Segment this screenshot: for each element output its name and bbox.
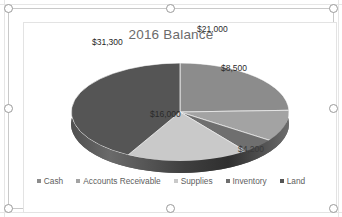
chart-title: 2016 Balance [9,27,333,42]
legend-swatch-icon [37,179,41,183]
legend-label: Supplies [181,176,213,186]
data-label-inventory: $4,200 [238,144,264,154]
legend-item-land[interactable]: Land [280,176,305,186]
resize-handle-top-center[interactable] [166,4,175,13]
resize-handle-middle-left[interactable] [4,104,13,113]
resize-handle-bottom-center[interactable] [166,204,175,213]
chart-object-selection-frame[interactable]: 2016 Balance $21,000 $8,500 $16,000 $4,2… [8,8,334,209]
resize-handle-top-left[interactable] [4,4,13,13]
resize-handle-bottom-right[interactable] [329,204,338,213]
legend-swatch-icon [280,179,284,183]
resize-handle-top-right[interactable] [329,4,338,13]
legend-label: Cash [44,176,63,186]
resize-handle-bottom-left[interactable] [4,204,13,213]
legend-label: Land [287,176,305,186]
legend-swatch-icon [76,179,80,183]
chart-legend[interactable]: Cash Accounts Receivable Supplies Invent… [9,176,333,186]
legend-item-accounts-receivable[interactable]: Accounts Receivable [76,176,160,186]
sheet-gridline-vertical [338,0,339,217]
legend-swatch-icon [226,179,230,183]
legend-item-supplies[interactable]: Supplies [174,176,213,186]
legend-item-cash[interactable]: Cash [37,176,63,186]
data-label-accounts-receivable: $8,500 [221,63,247,73]
data-label-cash: $21,000 [197,24,228,34]
legend-swatch-icon [174,179,178,183]
legend-label: Accounts Receivable [83,176,160,186]
pie-chart-graphic[interactable] [71,63,289,178]
resize-handle-middle-right[interactable] [329,104,338,113]
data-label-supplies: $16,000 [150,109,181,119]
legend-item-inventory[interactable]: Inventory [226,176,267,186]
data-label-land: $31,300 [92,37,123,47]
legend-label: Inventory [233,176,267,186]
